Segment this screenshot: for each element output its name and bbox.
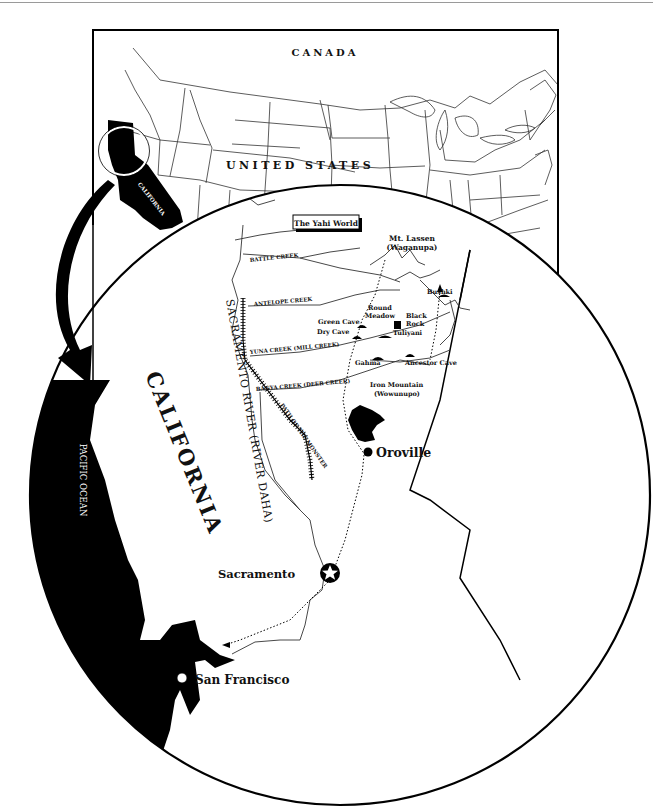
oroville-city-dot xyxy=(364,448,373,457)
san-francisco-city-dot xyxy=(177,673,187,683)
yahi-world-map: CANADA UNITED STATES CALIFORNIA PACIFIC … xyxy=(0,0,653,809)
map-title-box: The Yahi World xyxy=(293,215,362,232)
sacramento-capital-star xyxy=(320,563,340,583)
